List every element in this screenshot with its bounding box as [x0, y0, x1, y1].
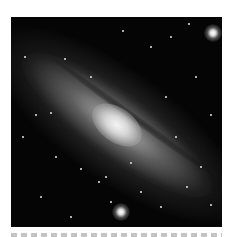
faint-star [150, 46, 152, 48]
galaxy-image [11, 17, 222, 227]
faint-star [35, 114, 37, 116]
faint-star [140, 191, 142, 193]
faint-star [200, 166, 202, 168]
faint-star [130, 162, 132, 164]
faint-star [170, 36, 172, 38]
faint-star [165, 96, 167, 98]
faint-star [210, 114, 212, 116]
faint-star [122, 30, 124, 32]
faint-star [50, 112, 52, 114]
faint-star [195, 76, 197, 78]
faint-star [90, 76, 92, 78]
faint-star [160, 206, 162, 208]
faint-star [105, 176, 107, 178]
faint-star [186, 186, 188, 188]
faint-star [24, 56, 26, 58]
faint-star [188, 23, 190, 25]
faint-star [55, 156, 57, 158]
bottom-star [112, 203, 130, 221]
caption-clipped-text [11, 233, 222, 237]
faint-star [64, 58, 66, 60]
faint-star [210, 204, 212, 206]
top-right-star [204, 24, 222, 42]
faint-star [70, 216, 72, 218]
figure-caption [11, 233, 222, 237]
faint-star [22, 136, 24, 138]
faint-star [98, 181, 100, 183]
faint-star [175, 136, 177, 138]
faint-star [110, 201, 112, 203]
faint-star [40, 196, 42, 198]
faint-star [80, 168, 82, 170]
